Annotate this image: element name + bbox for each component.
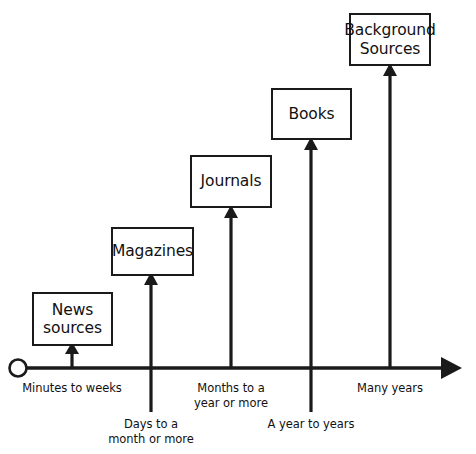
connector-arrow-books <box>304 137 318 412</box>
source-box-news-sources[interactable]: News sources <box>32 292 113 346</box>
axis-arrowhead-icon <box>441 357 462 379</box>
axis-label-days-to-a-month-or-more: Days to a month or more <box>91 417 211 447</box>
source-box-magazines[interactable]: Magazines <box>111 227 194 276</box>
connector-arrow-magazines <box>144 272 158 412</box>
axis-label-a-year-to-years: A year to years <box>251 417 371 432</box>
source-box-books[interactable]: Books <box>271 88 352 140</box>
source-box-label: Books <box>288 105 334 123</box>
source-box-label: Journals <box>201 172 262 190</box>
time-axis <box>10 357 463 379</box>
connector-arrow-journals <box>224 205 238 368</box>
axis-label-months-to-a-year-or-more: Months to a year or more <box>171 381 291 411</box>
source-box-background-sources[interactable]: Background Sources <box>349 13 431 66</box>
source-box-label: Background Sources <box>344 21 435 58</box>
axis-label-many-years: Many years <box>330 381 450 396</box>
source-box-journals[interactable]: Journals <box>190 155 272 208</box>
connector-arrow-background-sources <box>383 63 397 368</box>
axis-origin-circle-icon <box>10 360 27 377</box>
source-box-label: Magazines <box>112 242 193 260</box>
information-timeline-diagram: News sources Magazines Journals Books Ba… <box>0 0 476 454</box>
source-box-label: News sources <box>43 301 102 338</box>
axis-label-minutes-to-weeks: Minutes to weeks <box>12 381 132 396</box>
